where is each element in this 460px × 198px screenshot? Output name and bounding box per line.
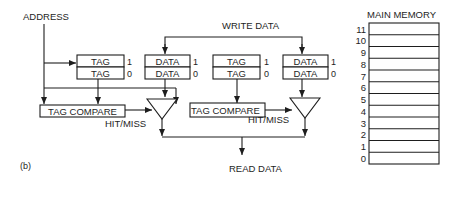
cache-diagram: ADDRESS WRITE DATA TAG TAG 1 0 DATA DATA… — [0, 0, 460, 198]
svg-text:1: 1 — [264, 57, 269, 67]
address-label: ADDRESS — [23, 11, 69, 22]
svg-text:4: 4 — [361, 106, 366, 117]
write-data-bus — [165, 37, 302, 51]
svg-text:9: 9 — [361, 47, 366, 58]
way1-hitmiss-label: HIT/MISS — [248, 114, 289, 125]
svg-text:1: 1 — [361, 141, 366, 152]
svg-text:1: 1 — [331, 57, 336, 67]
svg-text:6: 6 — [361, 82, 366, 93]
svg-text:0: 0 — [331, 69, 336, 79]
main-memory-addresses: 11 10 9 8 7 6 5 4 3 2 1 0 — [355, 24, 366, 164]
way0-data-array: DATA DATA 1 0 — [145, 55, 198, 79]
svg-text:DATA: DATA — [294, 68, 319, 79]
way1-data-array: DATA DATA 1 0 — [283, 55, 336, 79]
svg-text:TAG: TAG — [227, 68, 246, 79]
svg-text:1: 1 — [193, 57, 198, 67]
svg-text:DATA: DATA — [156, 68, 181, 79]
svg-text:DATA: DATA — [294, 56, 319, 67]
svg-text:11: 11 — [356, 24, 366, 35]
way1-buffer-triangle — [290, 98, 320, 118]
svg-text:0: 0 — [127, 69, 132, 79]
main-memory-title: MAIN MEMORY — [367, 9, 437, 20]
figure-label: (b) — [20, 161, 31, 171]
way1-tag-array: TAG TAG 1 0 — [213, 55, 269, 79]
svg-text:0: 0 — [361, 153, 366, 164]
way0-buffer-triangle — [147, 99, 177, 119]
svg-text:3: 3 — [361, 118, 366, 129]
svg-text:8: 8 — [361, 59, 366, 70]
read-data-label: READ DATA — [229, 163, 283, 174]
svg-text:2: 2 — [361, 129, 366, 140]
svg-text:7: 7 — [361, 71, 366, 82]
main-memory-array — [369, 23, 439, 164]
way0-hitmiss-label: HIT/MISS — [105, 118, 146, 129]
svg-text:10: 10 — [355, 35, 366, 46]
way0-tag-compare-label: TAG COMPARE — [48, 106, 117, 117]
way0-tag-array: TAG TAG 1 0 — [77, 55, 132, 79]
svg-text:0: 0 — [264, 69, 269, 79]
svg-text:TAG: TAG — [91, 68, 110, 79]
svg-text:TAG: TAG — [227, 56, 246, 67]
svg-text:DATA: DATA — [156, 56, 181, 67]
svg-text:TAG: TAG — [91, 56, 110, 67]
svg-text:5: 5 — [361, 94, 366, 105]
svg-text:1: 1 — [127, 57, 132, 67]
svg-text:0: 0 — [193, 69, 198, 79]
write-data-label: WRITE DATA — [222, 20, 280, 31]
